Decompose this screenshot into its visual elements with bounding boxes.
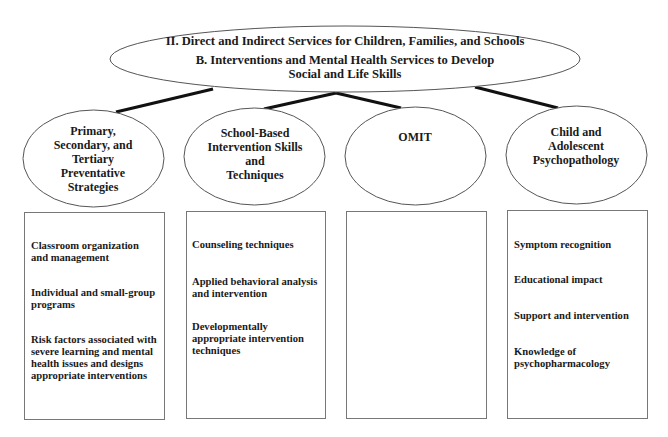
node-label-line: OMIT [398, 130, 431, 144]
root-label: II. Direct and Indirect Services for Chi… [150, 33, 540, 83]
list-item: Risk factors associated with severe lear… [31, 334, 161, 382]
list-item: Applied behavioral analysis and interven… [192, 276, 324, 300]
list-item: Support and intervention [514, 310, 644, 322]
node-label-line: Adolescent [548, 139, 604, 153]
node-label-line: School-Based [221, 126, 290, 140]
concept-diagram: II. Direct and Indirect Services for Chi… [0, 0, 668, 437]
node-label-school-based-intervention: School-Based Intervention Skills and Tec… [194, 125, 316, 183]
node-label-line: Intervention Skills [207, 140, 302, 154]
list-item: Individual and small-group programs [31, 287, 161, 311]
root-subtitle-line-2: Social and Life Skills [288, 67, 401, 82]
node-label-psychopathology: Child and Adolescent Psychopathology [516, 124, 636, 168]
list-item: Developmentally appropriate intervention… [192, 321, 312, 357]
list-item: Symptom recognition [514, 239, 644, 251]
node-label-line: Strategies [68, 180, 119, 194]
list-item: Counseling techniques [192, 239, 322, 251]
list-item: Educational impact [514, 274, 644, 286]
connector-line-1 [116, 89, 213, 112]
node-label-line: and [245, 154, 264, 168]
node-label-line: Tertiary [72, 152, 114, 166]
connector-line-2 [264, 93, 336, 109]
list-item: Classroom organization and management [31, 240, 151, 264]
node-label-line: Child and [550, 125, 601, 139]
node-label-line: Psychopathology [533, 153, 620, 167]
node-label-line: Techniques [226, 168, 284, 182]
node-label-line: Primary, [70, 124, 116, 138]
node-label-line: Preventative [61, 166, 125, 180]
detail-box-omit [346, 211, 487, 419]
root-subtitle-line-1: B. Interventions and Mental Health Servi… [196, 53, 495, 68]
connector-line-3 [336, 93, 401, 108]
connector-line-4 [475, 87, 558, 108]
list-item: Knowledge of psychopharmacology [514, 346, 624, 370]
node-ellipse-3 [345, 107, 486, 205]
node-label-line: Secondary, and [54, 138, 133, 152]
node-label-preventative-strategies: Primary, Secondary, and Tertiary Prevent… [33, 123, 153, 195]
node-label-omit: OMIT [355, 129, 475, 145]
root-title: II. Direct and Indirect Services for Chi… [166, 34, 525, 49]
